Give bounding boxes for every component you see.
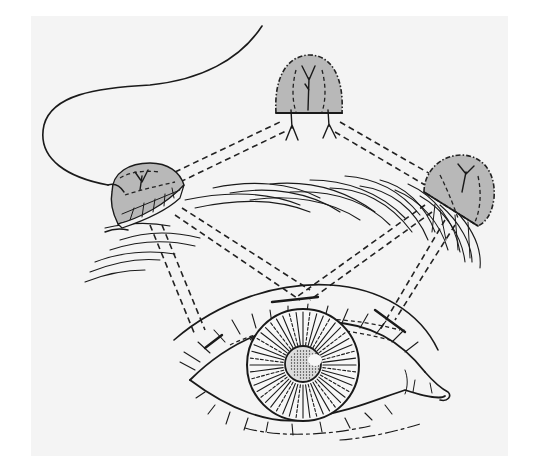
pupil-highlight <box>308 354 322 366</box>
eye-graft-illustration <box>0 0 536 476</box>
